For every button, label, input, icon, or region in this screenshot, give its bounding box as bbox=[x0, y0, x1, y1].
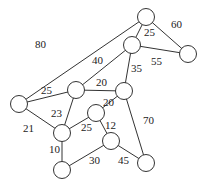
edge-weight-label: 20 bbox=[96, 76, 108, 88]
edge-weight-label: 25 bbox=[41, 84, 53, 96]
graph-node-F bbox=[116, 83, 133, 100]
edge-weight-label: 20 bbox=[103, 96, 115, 108]
edge-weight-label: 25 bbox=[81, 121, 93, 133]
graph-node-K bbox=[138, 155, 155, 172]
graph-diagram: 8025604055352520212320702512103045 bbox=[0, 0, 202, 187]
edge-weight-label: 12 bbox=[105, 119, 116, 131]
graph-node-E bbox=[68, 82, 85, 99]
graph-node-G bbox=[88, 105, 105, 122]
edge-weight-label: 23 bbox=[51, 107, 63, 119]
edge-weight-label: 35 bbox=[131, 62, 143, 74]
edge-weight-label: 25 bbox=[144, 26, 156, 38]
graph-node-I bbox=[103, 133, 120, 150]
graph-node-C bbox=[180, 46, 197, 63]
edge-weight-label: 10 bbox=[49, 143, 61, 155]
graph-node-B bbox=[124, 37, 141, 54]
nodes-layer bbox=[11, 9, 197, 179]
edge-weight-label: 21 bbox=[23, 122, 34, 134]
graph-node-J bbox=[54, 162, 71, 179]
edge-weight-label: 40 bbox=[92, 54, 104, 66]
edge-weight-label: 60 bbox=[171, 18, 183, 30]
edge-weight-label: 30 bbox=[89, 154, 101, 166]
edge-weight-label: 55 bbox=[151, 55, 163, 67]
edge-weight-label: 45 bbox=[118, 154, 130, 166]
edge-weight-label: 70 bbox=[143, 114, 155, 126]
edge-F-K bbox=[124, 91, 146, 163]
edge-weight-label: 80 bbox=[35, 38, 47, 50]
graph-node-H bbox=[54, 125, 71, 142]
graph-node-D bbox=[11, 96, 28, 113]
graph-node-A bbox=[138, 9, 155, 26]
